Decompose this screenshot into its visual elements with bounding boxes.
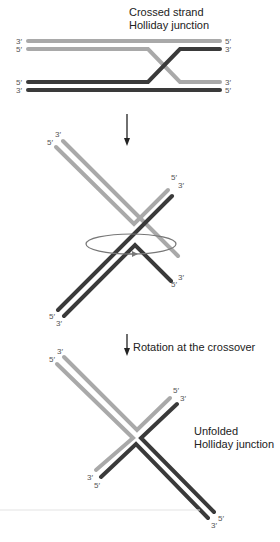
label: 3′	[211, 521, 217, 530]
rotation-label: Rotation at the crossover	[133, 341, 256, 353]
label: 3′	[56, 319, 62, 328]
label: 5′	[218, 514, 224, 523]
arrow-2	[124, 334, 130, 356]
top-crossed-junction	[28, 41, 220, 90]
label: 5′	[171, 280, 177, 289]
strand-light-b	[64, 357, 170, 430]
top-title-line1: Crossed strand	[129, 6, 204, 18]
label: 3′	[55, 130, 61, 139]
strand-dark-1	[28, 49, 220, 82]
label: 3′	[180, 394, 186, 403]
label: 5′	[47, 138, 53, 147]
top-title-line2: Holliday junction	[129, 19, 209, 31]
label: 5′	[16, 45, 22, 54]
label: 3′	[87, 473, 93, 482]
strand-light-2	[28, 49, 220, 82]
label: 5′	[225, 86, 231, 95]
bottom-title-line1: Unfolded	[194, 425, 238, 437]
bottom-unfolded-junction	[57, 357, 214, 518]
label: 3′	[57, 347, 63, 356]
label: 5′	[94, 481, 100, 490]
down-arrow-icon	[124, 348, 130, 356]
down-arrow-icon	[124, 138, 130, 146]
arrow-1	[124, 114, 130, 146]
label: 3′	[178, 273, 184, 282]
middle-junction	[56, 141, 178, 316]
label: 5′	[49, 355, 55, 364]
label: 5′	[171, 173, 177, 182]
bottom-title-line2: Holliday junction	[194, 438, 274, 450]
label: 5′	[173, 386, 179, 395]
label: 3′	[178, 181, 184, 190]
label: 5′	[49, 312, 55, 321]
rotation-arrow-icon	[132, 251, 138, 257]
label: 3′	[16, 86, 22, 95]
strand-light-inner	[56, 147, 168, 224]
label: 3′	[225, 45, 231, 54]
holliday-junction-diagram: Crossed strand Holliday junction 3′ 5′ 5…	[0, 0, 280, 542]
strand-dark-b	[101, 444, 208, 518]
strand-dark-inner	[64, 245, 171, 316]
